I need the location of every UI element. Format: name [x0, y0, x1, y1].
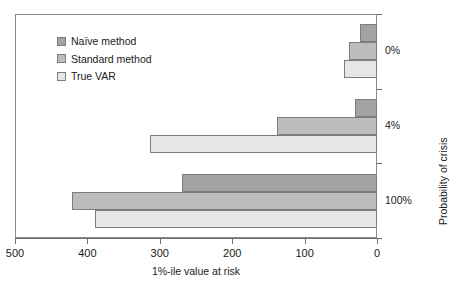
bar	[150, 135, 377, 153]
x-axis-line	[15, 238, 377, 239]
x-axis-tick-label: 500	[6, 247, 24, 259]
bar	[277, 117, 377, 135]
x-axis-title: 1%-ile value at risk	[15, 265, 377, 277]
bar	[95, 210, 377, 228]
bar	[344, 60, 377, 78]
legend-item: Standard method	[57, 54, 152, 65]
y-axis-category-label: 4%	[385, 119, 400, 131]
x-axis-tick	[15, 239, 16, 244]
bar	[72, 192, 377, 210]
legend-item-label: True VAR	[71, 71, 116, 82]
x-axis-tick	[87, 239, 88, 244]
bar	[349, 42, 377, 60]
y-axis-tick	[377, 163, 382, 164]
y-axis-category-label: 100%	[385, 194, 412, 206]
legend-swatch-icon	[57, 72, 66, 81]
bar-chart: 0%4%100% 5004003002001000 1%-ile value a…	[0, 0, 450, 289]
x-axis-tick-label: 200	[223, 247, 241, 259]
x-axis-tick	[377, 239, 378, 244]
bar	[355, 99, 377, 117]
bar	[360, 24, 377, 42]
bar	[182, 174, 377, 192]
x-axis-tick-label: 0	[374, 247, 380, 259]
x-axis-tick-label: 100	[295, 247, 313, 259]
x-axis-tick	[305, 239, 306, 244]
legend-item: True VAR	[57, 71, 152, 82]
x-axis-tick-label: 300	[151, 247, 169, 259]
chart-legend: Naïve methodStandard methodTrue VAR	[57, 36, 152, 82]
legend-swatch-icon	[57, 54, 66, 63]
legend-item: Naïve method	[57, 36, 152, 47]
legend-swatch-icon	[57, 37, 66, 46]
x-axis-tick	[232, 239, 233, 244]
y-axis-tick	[377, 89, 382, 90]
x-axis-tick	[160, 239, 161, 244]
legend-item-label: Naïve method	[71, 36, 136, 47]
x-axis-tick-label: 400	[78, 247, 96, 259]
y-axis-title: Probability of crisis	[437, 137, 449, 225]
y-axis-tick	[377, 14, 382, 15]
y-axis-category-label: 0%	[385, 44, 400, 56]
legend-item-label: Standard method	[71, 54, 152, 65]
